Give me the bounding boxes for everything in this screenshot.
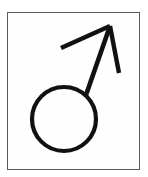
mars-symbol-arrowhead-right-barb (110, 26, 119, 73)
mars-symbol-circle (32, 87, 96, 151)
image-canvas (0, 0, 148, 177)
male-gender-symbol (0, 0, 148, 177)
